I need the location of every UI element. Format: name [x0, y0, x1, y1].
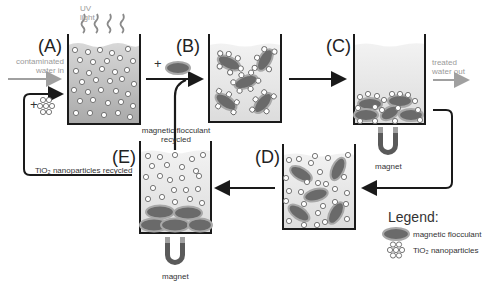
plus-sign: + [30, 100, 38, 109]
magnet-label-c: magnet [375, 162, 402, 171]
stage-a-label: (A) [38, 36, 62, 57]
legend-title: Legend: [388, 209, 439, 225]
stage-e-label: (E) [112, 147, 136, 168]
treated-water-out-label: treatedwater out [432, 58, 465, 76]
stage-c-label: (C) [326, 36, 351, 57]
nanoparticle-cluster-icon [37, 97, 54, 114]
magnet-icon [378, 127, 398, 155]
legend-flocculant-icon [383, 228, 409, 240]
tank-a [68, 34, 140, 124]
stage-d-label: (D) [255, 147, 280, 168]
tio2-recycled-label: TiO₂ nanoparticles recycled [35, 166, 133, 175]
process-diagram [0, 0, 500, 285]
legend-nanoparticle-icon [387, 242, 404, 258]
tank-b [208, 34, 282, 122]
magnet-icon [165, 237, 185, 265]
stage-b-label: (B) [176, 36, 200, 57]
tank-c [354, 34, 426, 155]
legend-flocculant-label: magnetic flocculant [413, 230, 481, 239]
tank-d [283, 144, 355, 229]
uv-light-label: UVlight [80, 4, 95, 22]
magnet-label-e: magnet [162, 272, 189, 281]
contaminated-water-in-label: contaminatedwater in [6, 57, 64, 75]
tank-e [140, 141, 212, 265]
flocculant-recycled-label: magnetic flocculantrecycled [138, 126, 214, 144]
legend-nanoparticle-label: TiO₂ nanoparticles [413, 246, 479, 255]
plus-sign: + [154, 59, 162, 68]
